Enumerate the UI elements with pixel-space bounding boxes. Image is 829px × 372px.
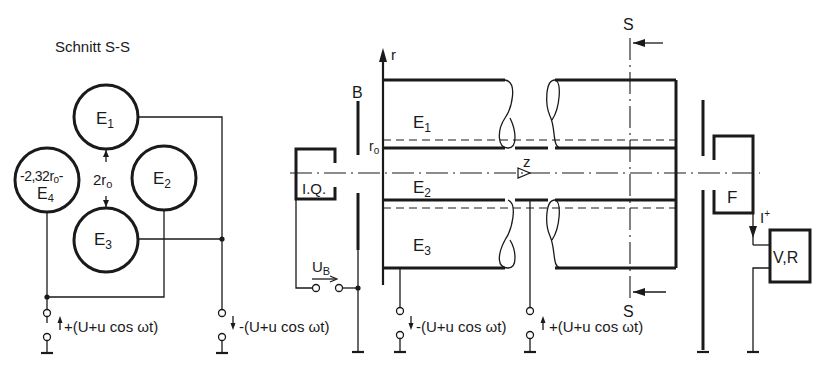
svg-text:E3: E3 [94,230,112,252]
svg-text:S: S [623,16,634,33]
svg-text:V,R: V,R [773,249,798,266]
svg-text:I+: I+ [760,208,770,226]
detector-f: F I+ [714,136,770,352]
exit-aperture [697,100,709,352]
aperture-b: B [352,84,364,352]
svg-text:E4: E4 [37,185,54,204]
section-marker: S S [623,16,666,320]
svg-text:I.Q.: I.Q. [302,180,326,197]
rod-wiring: -(U+u cos ωt) +(U+u cos ωt) [394,200,643,352]
electrode-e4: -2,32ro- E4 [15,148,79,212]
svg-text:-(U+u cos ωt): -(U+u cos ωt) [416,318,506,335]
svg-text:F: F [727,188,737,207]
quadrupole-diagram: Schnitt S-S E1 E2 E3 -2,32ro- E4 2ro [0,0,829,372]
svg-text:E1: E1 [96,109,114,131]
svg-text:ro: ro [369,138,380,156]
svg-text:E3: E3 [413,236,431,258]
electrode-e3: E3 [74,208,138,272]
negative-supply-terminal: -(U+u cos ωt) [216,310,329,354]
section-view: Schnitt S-S E1 E2 E3 -2,32ro- E4 2ro [15,38,329,353]
svg-text:-(U+u cos ωt): -(U+u cos ωt) [239,318,329,335]
svg-text:E2: E2 [153,169,171,191]
svg-text:+(U+u cos ωt): +(U+u cos ωt) [64,318,158,335]
svg-text:E1: E1 [413,113,431,135]
section-title: Schnitt S-S [55,38,130,55]
amplifier-box: V,R [770,230,810,282]
svg-text:UB: UB [312,258,330,277]
ub-switch: UB [296,199,361,292]
svg-text:-2,32ro-: -2,32ro- [20,168,64,185]
gap-dimension: 2ro [93,150,112,207]
electrode-e2: E2 [132,146,196,210]
svg-text:E2: E2 [413,178,431,200]
svg-text:B: B [352,84,363,101]
svg-text:r: r [391,46,396,63]
longitudinal-view: z r I.Q. B UB [290,16,810,352]
svg-text:+(U+u cos ωt): +(U+u cos ωt) [549,318,643,335]
svg-text:2ro: 2ro [93,171,112,190]
positive-supply-terminal: +(U+u cos ωt) [41,310,158,354]
svg-text:z: z [523,153,531,170]
ion-source: I.Q. [296,149,335,199]
electrode-e1: E1 [74,85,138,149]
